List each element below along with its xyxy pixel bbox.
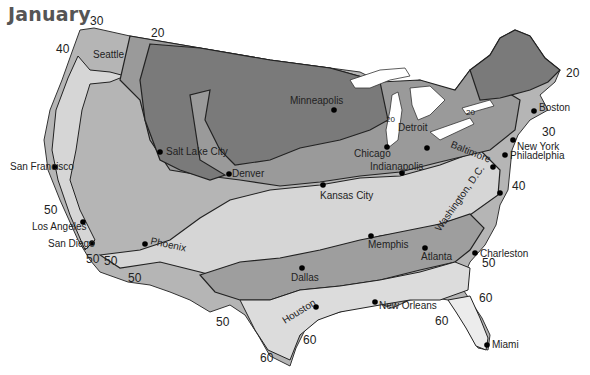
- isotherm-label: 50: [86, 252, 100, 266]
- isotherm-map: 30 20 40 20 20 20 30 40 50 50 50 50 50 5…: [0, 0, 590, 375]
- city-label-boston: Boston: [539, 102, 570, 113]
- isotherm-label: 60: [479, 291, 493, 305]
- isotherm-label: 20: [566, 66, 580, 80]
- city-label-dallas: Dallas: [291, 272, 319, 283]
- city-label-salt-lake-city: Salt Lake City: [166, 146, 228, 157]
- city-label-miami: Miami: [492, 339, 519, 350]
- city-label-chicago: Chicago: [354, 148, 391, 159]
- city-label-detroit: Detroit: [398, 122, 428, 133]
- city-label-san-francisco: San Francisco: [10, 161, 74, 172]
- city-label-denver: Denver: [232, 168, 265, 179]
- isotherm-label: 20: [151, 26, 165, 40]
- city-label-new-york: New York: [517, 141, 560, 152]
- city-label-san-diego: San Diego: [48, 238, 95, 249]
- city-label-atlanta: Atlanta: [421, 251, 453, 262]
- city-label-seattle: Seattle: [93, 49, 125, 60]
- isotherm-label: 20: [386, 115, 395, 124]
- city-label-minneapolis: Minneapolis: [290, 95, 343, 106]
- city-label-memphis: Memphis: [368, 239, 409, 250]
- isotherm-label: 40: [56, 42, 70, 56]
- city-label-indianapolis: Indianapolis: [370, 161, 423, 172]
- isotherm-label: 60: [260, 351, 274, 365]
- city-label-kansas-city: Kansas City: [320, 190, 373, 201]
- isotherm-label: 60: [303, 333, 317, 347]
- isotherm-label: 60: [435, 314, 449, 328]
- isotherm-label: 50: [44, 203, 58, 217]
- city-label-los-angeles: Los Angeles: [32, 221, 87, 232]
- isotherm-label: 50: [104, 254, 118, 268]
- isotherm-label: 40: [512, 179, 526, 193]
- isotherm-label: 30: [90, 14, 104, 28]
- isotherm-label: 50: [216, 315, 230, 329]
- city-label-charleston: Charleston: [480, 248, 528, 259]
- isotherm-label: 20: [466, 108, 475, 117]
- isotherm-label: 50: [128, 271, 142, 285]
- isotherm-label: 30: [542, 125, 556, 139]
- city-label-new-orleans: New Orleans: [379, 300, 437, 311]
